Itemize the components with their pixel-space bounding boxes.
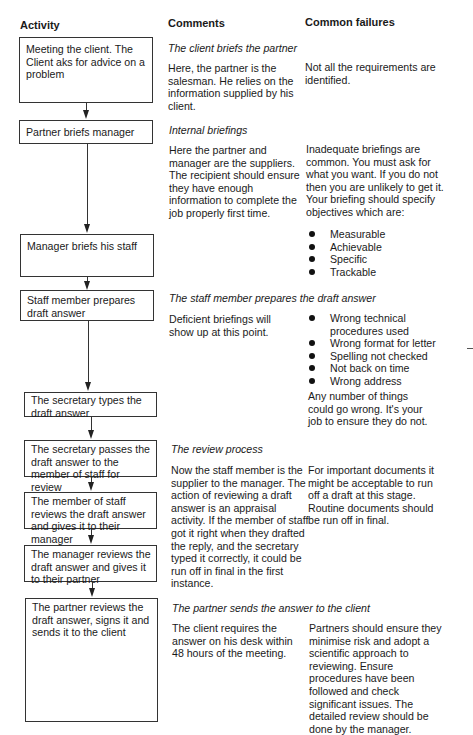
- section-failure: For important documents it might be acce…: [308, 464, 443, 527]
- activity-text: Partner briefs manager: [26, 126, 134, 138]
- section-failure: Not all the requirements are identified.: [305, 61, 440, 86]
- bullet-icon: [309, 244, 315, 250]
- bullet-icon: [309, 378, 315, 384]
- list-item: Wrong address: [306, 375, 446, 388]
- bullet-icon: [309, 256, 315, 262]
- activity-text: The partner reviews the draft answer, si…: [32, 601, 149, 638]
- section-title: Internal briefings: [169, 124, 299, 137]
- connector-line: [88, 321, 89, 384]
- activity-text: The manager reviews the draft answer and…: [31, 548, 151, 585]
- list-item: Measurable: [306, 228, 446, 241]
- activity-box-staff-prepares-draft: Staff member prepares draft answer: [20, 290, 154, 321]
- bullet-icon: [309, 340, 315, 346]
- arrow-down-icon: [84, 281, 90, 290]
- section-failure-note: Any number of things could go wrong. It'…: [308, 390, 436, 428]
- bullet-icon: [309, 315, 315, 321]
- activity-text: The secretary types the draft answer: [31, 394, 142, 419]
- activity-text: Manager briefs his staff: [27, 240, 137, 252]
- arrow-down-icon: [84, 224, 90, 233]
- objectives-list: Measurable Achievable Specific Trackable: [306, 228, 446, 278]
- failures-column-header: Common failures: [305, 16, 395, 29]
- list-item: Achievable: [306, 241, 446, 254]
- margin-mark: [467, 348, 473, 349]
- bullet-icon: [309, 353, 315, 359]
- section-comment: Here, the partner is the salesman. He re…: [168, 62, 300, 112]
- activity-box-staff-reviews: The member of staff reviews the draft an…: [24, 492, 157, 529]
- activity-column-header: Activity: [20, 19, 60, 32]
- section-comment: The client requires the answer on his de…: [172, 622, 306, 660]
- activity-box-partner-reviews: The partner reviews the draft answer, si…: [25, 598, 158, 722]
- arrow-down-icon: [88, 430, 94, 439]
- arrow-down-icon: [85, 382, 91, 391]
- list-item: Wrong format for letter: [306, 337, 446, 350]
- list-item: Trackable: [306, 266, 446, 279]
- failures-list: Wrong technical procedures used Wrong fo…: [306, 312, 446, 388]
- section-failure: Partners should ensure they minimise ris…: [309, 622, 449, 735]
- list-item: Not back on time: [306, 362, 446, 375]
- activity-box-manager-reviews: The manager reviews the draft answer and…: [24, 545, 157, 582]
- activity-box-secretary-passes: The secretary passes the draft answer to…: [24, 440, 157, 477]
- arrow-down-icon: [88, 482, 94, 491]
- section-comment: Now the staff member is the supplier to …: [171, 464, 311, 590]
- list-item: Wrong technical procedures used: [306, 312, 446, 337]
- arrow-down-icon: [88, 535, 94, 544]
- section-title: The staff member prepares the draft answ…: [169, 292, 409, 305]
- bullet-icon: [309, 231, 315, 237]
- activity-box-manager-briefs-staff: Manager briefs his staff: [20, 234, 154, 277]
- section-comment: Here the partner and manager are the sup…: [169, 144, 300, 220]
- activity-box-secretary-types: The secretary types the draft answer: [24, 392, 157, 417]
- arrow-down-icon: [83, 110, 89, 119]
- comments-column-header: Comments: [168, 17, 225, 30]
- arrow-down-icon: [89, 588, 95, 597]
- activity-box-partner-briefs-manager: Partner briefs manager: [19, 120, 153, 144]
- section-title: The partner sends the answer to the clie…: [172, 602, 432, 615]
- section-comment: Deficient briefings will show up at this…: [169, 313, 289, 338]
- activity-text: Meeting the client. The Client aks for a…: [26, 43, 145, 80]
- activity-text: Staff member prepares draft answer: [27, 294, 135, 319]
- activity-box-meeting-client: Meeting the client. The Client aks for a…: [19, 37, 153, 103]
- section-failure: Inadequate briefings are common. You mus…: [306, 143, 446, 219]
- bullet-icon: [309, 269, 315, 275]
- section-title: The review process: [171, 443, 301, 456]
- bullet-icon: [309, 365, 315, 371]
- connector-line: [87, 144, 88, 226]
- section-title: The client briefs the partner: [168, 42, 338, 55]
- list-item: Spelling not checked: [306, 350, 446, 363]
- list-item: Specific: [306, 253, 446, 266]
